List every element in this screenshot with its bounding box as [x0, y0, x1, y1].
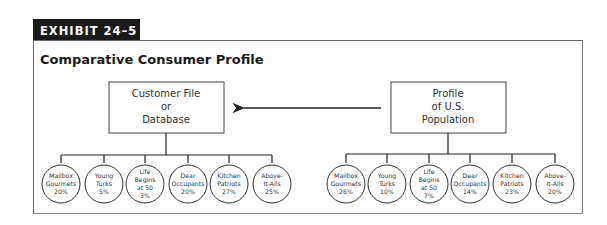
- svg-text:Above-: Above-: [544, 172, 566, 179]
- svg-text:at 50: at 50: [421, 184, 437, 191]
- svg-text:14%: 14%: [463, 188, 477, 195]
- svg-text:Dear: Dear: [463, 172, 478, 179]
- box-line: Database: [142, 114, 190, 125]
- left-segment-above-it-alls: Above- It-Alls 25%: [253, 165, 291, 203]
- box-line: Population: [422, 114, 475, 125]
- left-segment-dear-occupants: Dear Occupants 20%: [169, 165, 207, 203]
- svg-text:Life: Life: [139, 168, 150, 175]
- svg-text:Dear: Dear: [181, 172, 196, 179]
- svg-text:5%: 5%: [99, 188, 109, 195]
- svg-text:Kitchen: Kitchen: [217, 172, 240, 179]
- right-segment-mailbox-gourmets: Mailbox Gourmets 26%: [327, 165, 365, 203]
- right-segment-above-it-alls: Above- It-Alls 20%: [536, 165, 574, 203]
- customer-file-box: Customer File or Database: [109, 82, 224, 133]
- svg-text:Occupants: Occupants: [172, 180, 205, 188]
- left-segment-kitchen-patriots: Kitchen Patriots 27%: [210, 165, 248, 203]
- right-segment-dear-occupants: Dear Occupants 14%: [451, 165, 489, 203]
- svg-text:It-Alls: It-Alls: [263, 180, 280, 187]
- svg-text:20%: 20%: [181, 188, 195, 195]
- svg-text:Turks: Turks: [95, 180, 112, 187]
- svg-text:27%: 27%: [222, 188, 236, 195]
- box-line: Profile: [432, 88, 463, 99]
- svg-text:Patriots: Patriots: [217, 180, 240, 187]
- left-segment-mailbox-gourmets: Mailbox Gourmets 20%: [42, 165, 80, 203]
- right-segment-kitchen-patriots: Kitchen Patriots 23%: [493, 165, 531, 203]
- box-line: Customer File: [132, 88, 201, 99]
- us-population-box: Profile of U.S. Population: [391, 82, 506, 133]
- svg-text:20%: 20%: [548, 188, 562, 195]
- svg-text:Begins: Begins: [419, 176, 440, 184]
- svg-text:Mailbox: Mailbox: [334, 172, 358, 179]
- left-tree-connectors: [61, 133, 272, 163]
- svg-text:Mailbox: Mailbox: [49, 172, 73, 179]
- svg-text:Occupants: Occupants: [454, 180, 487, 188]
- svg-text:20%: 20%: [54, 188, 68, 195]
- svg-text:Gourmets: Gourmets: [331, 180, 361, 187]
- svg-text:Patriots: Patriots: [500, 180, 523, 187]
- svg-text:Young: Young: [377, 172, 397, 180]
- svg-text:Turks: Turks: [378, 180, 395, 187]
- svg-text:Young: Young: [94, 172, 114, 180]
- svg-text:at 50: at 50: [137, 184, 153, 191]
- left-segment-young-turks: Young Turks 5%: [85, 165, 123, 203]
- right-segment-life-begins-at-50: Life Begins at 50 7%: [410, 165, 448, 203]
- box-line: of U.S.: [432, 101, 465, 112]
- svg-text:Gourmets: Gourmets: [46, 180, 76, 187]
- svg-text:3%: 3%: [140, 192, 150, 199]
- svg-text:7%: 7%: [424, 192, 434, 199]
- svg-text:25%: 25%: [265, 188, 279, 195]
- svg-text:Life: Life: [423, 168, 434, 175]
- svg-text:It-Alls: It-Alls: [546, 180, 563, 187]
- svg-text:23%: 23%: [505, 188, 519, 195]
- svg-text:10%: 10%: [380, 188, 394, 195]
- svg-text:Kitchen: Kitchen: [500, 172, 523, 179]
- svg-text:Above-: Above-: [261, 172, 283, 179]
- left-segment-life-begins-at-50: Life Begins at 50 3%: [126, 165, 164, 203]
- svg-text:Begins: Begins: [135, 176, 156, 184]
- box-line: or: [161, 101, 172, 112]
- svg-text:26%: 26%: [339, 188, 353, 195]
- right-segment-young-turks: Young Turks 10%: [368, 165, 406, 203]
- right-tree-connectors: [346, 133, 555, 163]
- profile-diagram: Customer File or Database Profile of U.S…: [0, 0, 607, 225]
